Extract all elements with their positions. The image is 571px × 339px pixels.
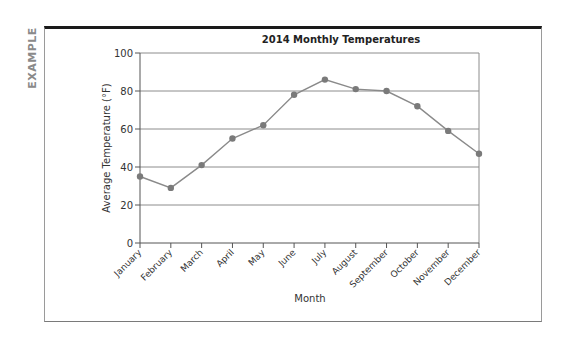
data-point bbox=[322, 76, 328, 82]
x-tick-label: July bbox=[309, 247, 329, 267]
data-point bbox=[198, 162, 204, 168]
data-point bbox=[260, 122, 266, 128]
data-point bbox=[168, 185, 174, 191]
data-point bbox=[414, 103, 420, 109]
gridlines bbox=[140, 53, 479, 205]
data-point bbox=[383, 88, 389, 94]
series-line bbox=[140, 80, 479, 188]
data-point bbox=[291, 92, 297, 98]
y-tick-label: 0 bbox=[127, 238, 133, 249]
y-tick-label: 80 bbox=[120, 86, 133, 97]
line-chart: 2014 Monthly Temperatures 020406080100 J… bbox=[0, 0, 571, 339]
x-tick-label: June bbox=[276, 247, 298, 269]
data-point bbox=[229, 135, 235, 141]
x-tick-label: April bbox=[214, 247, 236, 269]
y-tick-label: 100 bbox=[114, 48, 133, 59]
data-point bbox=[353, 86, 359, 92]
x-tick-label: May bbox=[246, 247, 267, 268]
y-axis-title: Average Temperature (°F) bbox=[101, 83, 112, 212]
data-point bbox=[137, 173, 143, 179]
x-axis-ticks: JanuaryFebruaryMarchAprilMayJuneJulyAugu… bbox=[112, 243, 483, 290]
data-point bbox=[445, 128, 451, 134]
y-axis-ticks: 020406080100 bbox=[114, 48, 140, 249]
x-tick-label: February bbox=[139, 247, 175, 283]
x-axis-title: Month bbox=[294, 293, 325, 304]
x-tick-label: March bbox=[179, 247, 205, 273]
y-tick-label: 20 bbox=[120, 200, 133, 211]
chart-title: 2014 Monthly Temperatures bbox=[262, 34, 421, 45]
y-tick-label: 60 bbox=[120, 124, 133, 135]
x-tick-label: August bbox=[330, 247, 360, 277]
data-point bbox=[476, 151, 482, 157]
axes bbox=[140, 53, 479, 243]
data-series bbox=[137, 76, 482, 191]
y-tick-label: 40 bbox=[120, 162, 133, 173]
